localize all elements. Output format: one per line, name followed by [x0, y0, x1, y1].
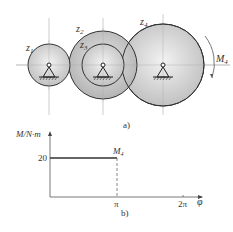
caption-a: a)	[123, 120, 130, 130]
y-tick-20: 20	[38, 153, 48, 163]
x-axis-label: φ	[197, 196, 203, 207]
moment-arrow-icon	[205, 36, 214, 78]
label-M4: M4	[215, 53, 228, 66]
y-axis-label: M/N·m	[15, 129, 41, 139]
curve-label-M4: M4	[112, 146, 124, 157]
label-z2: z2	[75, 23, 84, 36]
x-tick-pi: π	[114, 199, 119, 209]
x-tick-2pi: 2π	[178, 199, 188, 209]
gear-train-diagram: z1 z2 z3 z4 M4 a) M/N·m 20 M4 π 2π φ b)	[0, 0, 233, 232]
label-z1: z1	[25, 42, 33, 55]
moment-chart	[48, 131, 203, 199]
caption-b: b)	[121, 208, 129, 218]
label-z4: z4	[139, 16, 148, 29]
